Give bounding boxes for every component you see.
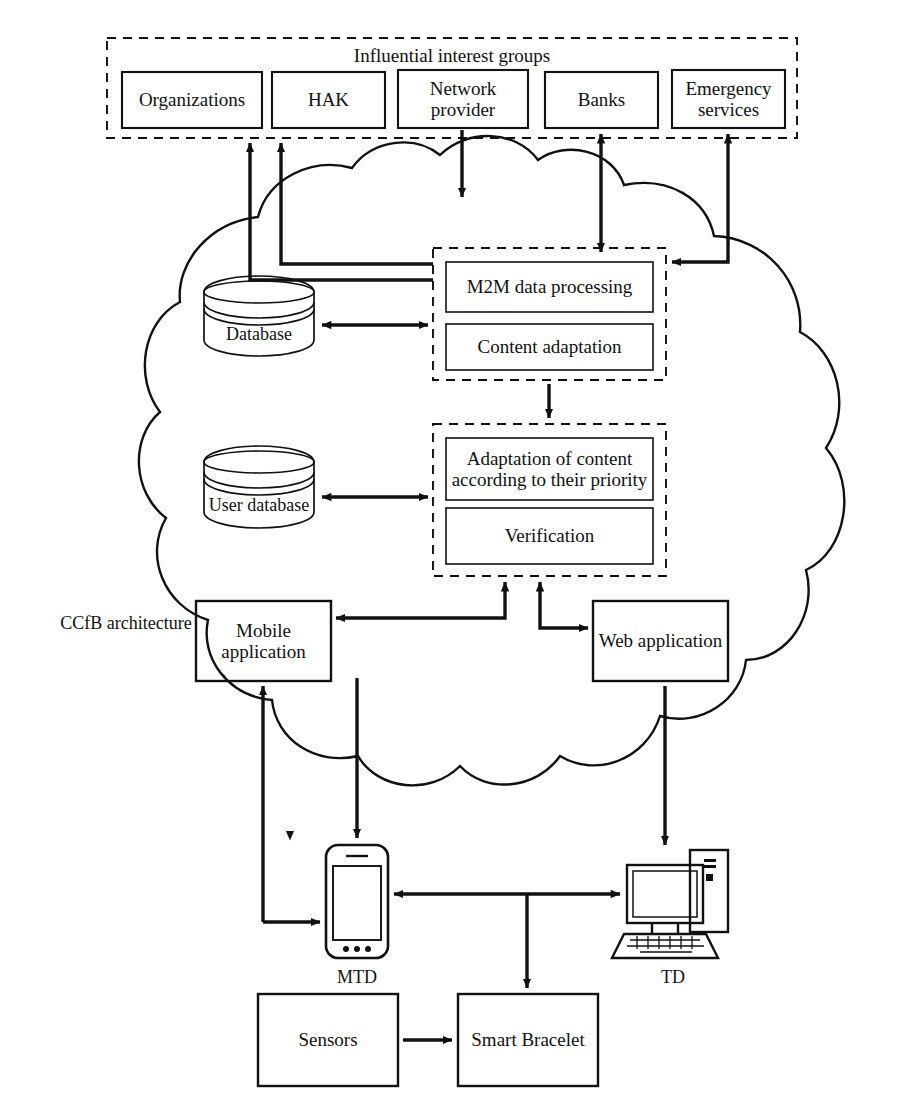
connector-emergency-services xyxy=(672,134,728,262)
box-smart-bracelet xyxy=(458,994,598,1086)
box-mobile-application xyxy=(196,601,331,681)
box-content-adaptation xyxy=(446,324,653,370)
box-web-application xyxy=(593,601,728,681)
interest-groups-container xyxy=(107,38,797,138)
box-verification xyxy=(446,508,653,564)
database-cylinder xyxy=(204,276,314,356)
smartphone-icon xyxy=(326,845,388,958)
diagram-canvas: Influential interest groups Organization… xyxy=(0,0,923,1113)
box-m2m-data-processing xyxy=(446,262,653,312)
computer-tower-leds-icon xyxy=(704,859,716,881)
smartphone-home-dots-icon xyxy=(343,946,371,952)
diagram-vector-layer xyxy=(0,0,923,1113)
connector-adaptation-to-mobile xyxy=(336,582,505,618)
cloud-outline xyxy=(139,136,844,785)
connector-adaptation-to-web xyxy=(540,582,588,628)
box-network-provider xyxy=(398,70,528,128)
connector-processing-to-organizations xyxy=(250,143,433,280)
box-hak xyxy=(272,72,385,128)
keyboard-keys-icon xyxy=(627,936,704,952)
box-adaptation-priority xyxy=(446,438,653,500)
box-organizations xyxy=(122,72,262,128)
processing-group-container xyxy=(433,248,666,380)
box-sensors xyxy=(258,994,398,1086)
box-emergency-services xyxy=(672,70,785,128)
box-banks xyxy=(545,72,658,128)
connector-layer xyxy=(250,130,728,1040)
user-database-cylinder xyxy=(204,446,314,528)
